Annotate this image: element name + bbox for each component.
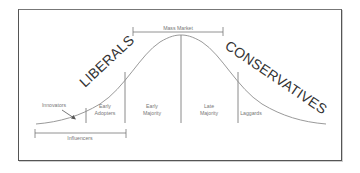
mass-market-bracket: Mass Market bbox=[133, 25, 223, 37]
early-majority-label-line2: Majority bbox=[143, 110, 162, 116]
late-majority-label-line2: Majority bbox=[200, 110, 219, 116]
early-majority-label-line1: Early bbox=[146, 103, 158, 109]
bell-curve-diagram: Mass Market Influencers LIBERALS CONSERV… bbox=[0, 0, 360, 173]
laggards-label: Laggards bbox=[240, 110, 262, 116]
innovators-label: Innovators bbox=[42, 102, 67, 108]
late-majority-label-line1: Late bbox=[204, 103, 214, 109]
mass-market-label: Mass Market bbox=[163, 25, 193, 31]
early-adopters-label-line2: Adopters bbox=[95, 110, 116, 116]
influencers-bracket: Influencers bbox=[35, 129, 126, 141]
early-adopters-label-line1: Early bbox=[99, 103, 111, 109]
liberals-label: LIBERALS bbox=[76, 32, 137, 90]
influencers-label: Influencers bbox=[67, 135, 93, 141]
